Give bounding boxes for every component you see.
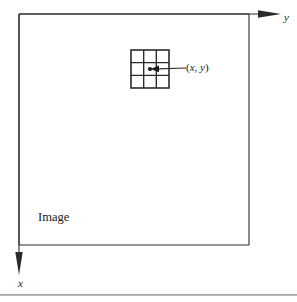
image-region-label: Image	[38, 211, 69, 224]
paren-close: )	[205, 61, 209, 73]
figure-canvas: y x Image (x, y)	[0, 0, 297, 302]
axis-label-y: y	[284, 12, 289, 23]
pixel-coordinate-label: (x, y)	[186, 62, 209, 73]
callout-leader-line	[158, 68, 186, 69]
pixel-callout-arrow	[148, 65, 186, 72]
y-axis-arrowhead	[258, 10, 281, 17]
x-axis-arrowhead	[15, 252, 22, 275]
axis-label-x: x	[18, 278, 23, 289]
figure-vector-graphic	[0, 0, 297, 302]
bottom-divider-rule	[0, 294, 297, 296]
center-pixel-dot	[148, 67, 152, 71]
